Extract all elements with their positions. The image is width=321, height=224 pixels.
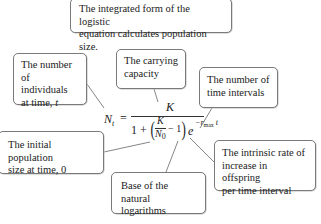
callout-text: increase in offspring (222, 160, 308, 185)
title-box: The integrated form of the logistic equa… (70, 0, 232, 33)
callout-text: logarithms (121, 205, 196, 218)
eq-e: e (188, 124, 193, 139)
callout-text: The number of (207, 74, 270, 87)
callout-text: capacity (124, 68, 178, 81)
eq-exponent: −rmax t (195, 118, 218, 127)
eq-inner-numerator: K (157, 115, 164, 126)
callout-initial-population: The initial population size at time, 0 (0, 131, 104, 174)
callout-text: per time interval (222, 185, 308, 198)
eq-minus-one: − 1 (168, 123, 181, 134)
callout-carrying-capacity: The carrying capacity (116, 49, 186, 89)
callout-text: The number (21, 59, 79, 72)
callout-natural-log-base: Base of the natural logarithms (111, 172, 206, 214)
title-line-1: The integrated form of the logistic (79, 3, 223, 28)
callout-text: Base of the natural (121, 180, 196, 205)
callout-text: The initial population (8, 139, 94, 164)
logistic-equation: Nt = K 1 + ( K N0 − 1 ) e −rmax t (104, 102, 224, 146)
eq-equals: = (120, 111, 127, 126)
eq-paren-close: ) (181, 116, 185, 142)
callout-text: size at time, 0 (8, 164, 94, 177)
callout-individuals: The number of individuals at time, t (13, 53, 87, 105)
eq-inner-denominator: N0 (155, 128, 166, 139)
eq-fraction-bar (131, 116, 204, 117)
callout-text: The carrying (124, 55, 178, 68)
callout-intrinsic-rate: The intrinsic rate of increase in offspr… (214, 140, 316, 191)
eq-lhs: Nt (104, 112, 114, 127)
callout-text: of individuals (21, 72, 79, 97)
eq-numerator: K (166, 100, 174, 115)
callout-text: The intrinsic rate of (222, 147, 308, 160)
callout-text: at time, t (21, 97, 79, 110)
eq-one-plus: 1 + (131, 123, 147, 138)
callout-text: time intervals (207, 87, 270, 100)
